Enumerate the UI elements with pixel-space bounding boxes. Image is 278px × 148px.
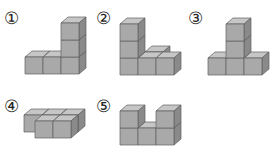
figure-1-cubes bbox=[25, 17, 86, 74]
figure-3-cubes bbox=[208, 18, 269, 75]
cube-figures bbox=[0, 0, 278, 148]
figure-4-cubes bbox=[24, 109, 85, 138]
figure-5-cubes bbox=[120, 105, 181, 145]
figure-2-cubes bbox=[120, 18, 181, 75]
